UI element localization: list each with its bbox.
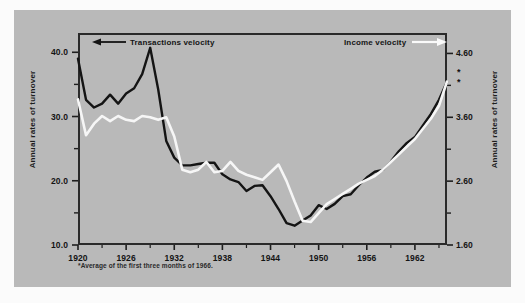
y-tick-label-left-3: 40.0 — [34, 47, 68, 57]
legend-arrows — [92, 38, 447, 46]
x-tick-label-7: 1962 — [393, 253, 437, 263]
series-line-0 — [78, 48, 447, 226]
x-tick-label-2: 1932 — [152, 253, 196, 263]
y-tick-label-left-1: 20.0 — [34, 176, 68, 186]
y-tick-label-right-0: 1.60 — [456, 240, 492, 250]
y-tick-label-right-3: 4.60 — [456, 48, 492, 58]
y-tick-label-right-1: 2.60 — [456, 176, 492, 186]
legend-arrowhead-right — [437, 38, 447, 46]
chart-panel: Annual rates of turnover Annual rates of… — [14, 10, 511, 287]
x-tick-label-3: 1938 — [200, 253, 244, 263]
y-tick-label-left-2: 30.0 — [34, 112, 68, 122]
legend-arrowhead-left — [92, 39, 101, 46]
chart-figure: Annual rates of turnover Annual rates of… — [0, 0, 525, 303]
x-axis-ticks — [78, 245, 439, 250]
asterisk-marker-1: * — [457, 79, 461, 85]
chart-svg — [14, 10, 511, 287]
series-lines — [78, 48, 447, 226]
x-tick-label-5: 1950 — [297, 253, 341, 263]
y-tick-label-right-2: 3.60 — [456, 112, 492, 122]
asterisk-marker-0: * — [457, 69, 461, 75]
x-tick-label-1: 1926 — [104, 253, 148, 263]
series-line-1 — [78, 82, 447, 222]
x-tick-label-0: 1920 — [56, 253, 100, 263]
x-tick-label-4: 1944 — [249, 253, 293, 263]
y-tick-label-left-0: 10.0 — [34, 240, 68, 250]
y-axis-ticks-left — [72, 52, 78, 245]
x-tick-label-6: 1956 — [345, 253, 389, 263]
